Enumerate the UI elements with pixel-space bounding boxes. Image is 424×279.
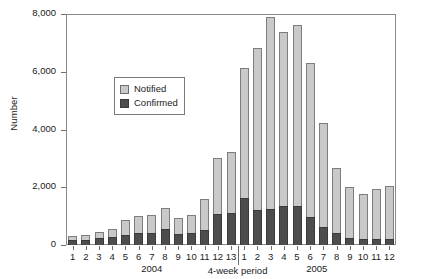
bar-segment-notified (306, 63, 315, 218)
bar-segment-notified (240, 68, 249, 197)
bar-segment-confirmed (332, 233, 341, 245)
x-axis-tick-mark (178, 246, 179, 250)
bar-segment-notified (227, 152, 236, 212)
x-axis-title: 4-week period (183, 265, 293, 276)
bar-stack (293, 25, 302, 245)
x-axis-tick-mark (73, 246, 74, 250)
bar-segment-notified (147, 215, 156, 233)
bar-segment-confirmed (227, 213, 236, 245)
bar-segment-notified (332, 168, 341, 233)
x-axis-tick-mark (231, 246, 232, 250)
bar-segment-notified (200, 199, 209, 230)
y-axis-tick-mark (61, 245, 66, 246)
x-axis-tick-mark (152, 246, 153, 250)
bar-stack (213, 158, 222, 245)
y-axis-tick-label: 2,000 (32, 180, 56, 191)
bar-stack (240, 68, 249, 245)
bar-segment-confirmed (306, 217, 315, 245)
bar-segment-confirmed (240, 198, 249, 245)
x-axis-tick-label: 12 (380, 251, 398, 262)
chart-figure: Number 02,0004,0006,0008,000 12345678910… (0, 0, 424, 279)
legend-item: Confirmed (120, 96, 178, 110)
bar-segment-confirmed (187, 233, 196, 245)
bar-stack (81, 235, 90, 245)
bar-stack (68, 236, 77, 245)
bar-stack (306, 63, 315, 245)
x-axis-tick-mark (86, 246, 87, 250)
bar-segment-confirmed (81, 240, 90, 245)
x-axis-tick-mark (323, 246, 324, 250)
bar-segment-confirmed (253, 210, 262, 245)
x-axis-tick-mark (112, 246, 113, 250)
bar-stack (279, 32, 288, 245)
bar-stack (121, 220, 130, 245)
bar-segment-confirmed (279, 206, 288, 245)
bar-segment-notified (253, 48, 262, 211)
bar-segment-notified (161, 208, 170, 229)
bar-segment-notified (319, 123, 328, 227)
bar-stack (187, 215, 196, 245)
x-axis-tick-mark (363, 246, 364, 250)
group-separator-line (238, 246, 239, 265)
x-axis-tick-mark (376, 246, 377, 250)
bar-stack (134, 216, 143, 245)
y-axis-tick-label: 0 (51, 238, 56, 249)
bar-stack (345, 187, 354, 245)
bar-segment-confirmed (372, 239, 381, 245)
bar-segment-notified (121, 220, 130, 235)
x-axis-tick-mark (257, 246, 258, 250)
x-axis-tick-mark (125, 246, 126, 250)
bar-segment-notified (385, 186, 394, 240)
x-axis-tick-mark (337, 246, 338, 250)
bar-segment-confirmed (293, 206, 302, 245)
x-axis-tick-mark (310, 246, 311, 250)
bar-segment-confirmed (266, 209, 275, 245)
x-axis-tick-mark (350, 246, 351, 250)
y-axis-tick-label: 8,000 (32, 7, 56, 18)
bar-stack (227, 152, 236, 245)
bar-segment-notified (174, 218, 183, 234)
x-axis-tick-mark (297, 246, 298, 250)
bar-stack (319, 123, 328, 245)
x-axis-tick-mark (244, 246, 245, 250)
x-axis-tick-mark (218, 246, 219, 250)
bar-segment-notified (372, 189, 381, 239)
bar-segment-confirmed (121, 235, 130, 245)
bar-segment-notified (359, 194, 368, 239)
bar-stack (372, 189, 381, 245)
bar-segment-confirmed (359, 239, 368, 245)
bar-stack (332, 168, 341, 245)
bar-segment-notified (279, 32, 288, 206)
legend-item: Notified (120, 82, 178, 96)
x-axis-tick-mark (191, 246, 192, 250)
bar-segment-confirmed (319, 227, 328, 245)
bar-segment-confirmed (345, 238, 354, 245)
group-year-label: 2005 (297, 263, 337, 274)
x-axis-tick-mark (165, 246, 166, 250)
bar-segment-confirmed (174, 234, 183, 245)
bar-stack (174, 218, 183, 245)
bar-segment-confirmed (95, 238, 104, 245)
y-axis-tick-label: 4,000 (32, 123, 56, 134)
bar-stack (108, 229, 117, 245)
bar-stack (95, 232, 104, 245)
x-axis-tick-mark (99, 246, 100, 250)
legend-swatch-confirmed (120, 99, 129, 108)
bar-segment-confirmed (385, 239, 394, 245)
bar-stack (161, 208, 170, 245)
group-year-label: 2004 (132, 263, 172, 274)
legend-swatch-notified (120, 85, 129, 94)
x-axis-tick-mark (284, 246, 285, 250)
bar-segment-confirmed (161, 229, 170, 245)
bar-segment-confirmed (147, 233, 156, 245)
x-axis-tick-mark (389, 246, 390, 250)
chart-legend: NotifiedConfirmed (114, 77, 185, 115)
x-axis-tick-mark (271, 246, 272, 250)
bar-stack (253, 48, 262, 246)
bar-stack (200, 199, 209, 245)
bar-stack (359, 194, 368, 245)
bar-stack (147, 215, 156, 245)
legend-label: Confirmed (134, 98, 178, 108)
bar-segment-notified (266, 17, 275, 209)
bar-segment-notified (134, 216, 143, 233)
